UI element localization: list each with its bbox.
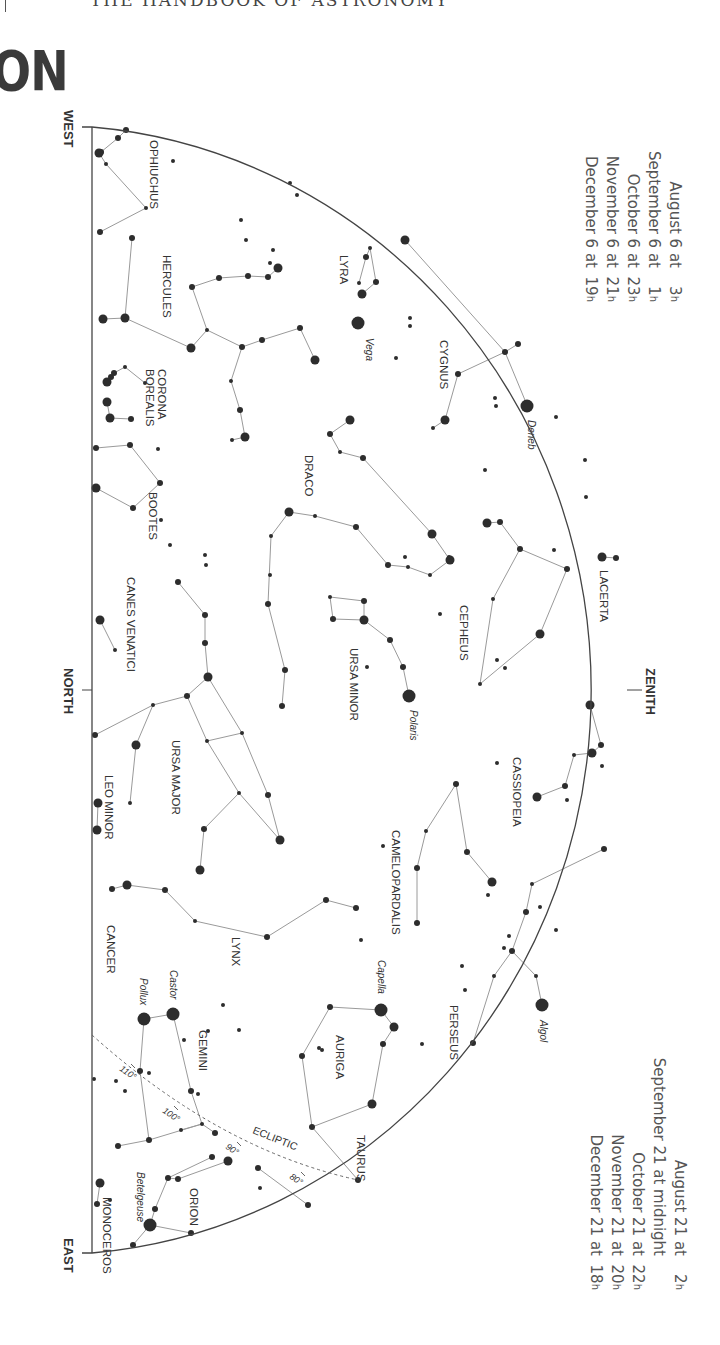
field-star bbox=[204, 563, 208, 567]
field-star bbox=[494, 404, 498, 408]
west-label: WEST bbox=[61, 110, 76, 148]
constellation-figure bbox=[103, 238, 315, 440]
north-label: NORTH bbox=[61, 668, 76, 714]
time-row: November 21 at20h bbox=[606, 1070, 627, 1290]
star-dot bbox=[95, 149, 104, 158]
star-dot bbox=[401, 236, 410, 245]
star-dot bbox=[187, 344, 196, 353]
star-dot bbox=[414, 865, 420, 871]
constellation-label: LYNX bbox=[230, 937, 242, 967]
star-dot bbox=[93, 826, 102, 835]
star-dot bbox=[96, 1179, 105, 1188]
constellation-figure bbox=[405, 240, 527, 428]
star-dot bbox=[586, 701, 595, 710]
time-date: October 21 at bbox=[627, 1152, 648, 1256]
ecliptic-degree-label: 100° bbox=[161, 1105, 182, 1124]
star-dot bbox=[189, 284, 195, 290]
constellation-label: BOOTES bbox=[147, 492, 159, 540]
field-star bbox=[114, 1079, 118, 1083]
star-dot bbox=[202, 612, 208, 618]
constellation-label: OPHIUCHUS bbox=[148, 140, 160, 209]
constellation-figure bbox=[95, 582, 280, 870]
star-dot bbox=[598, 553, 607, 562]
star-dot bbox=[453, 781, 459, 787]
star-dot bbox=[380, 1041, 386, 1047]
star-dot bbox=[237, 407, 243, 413]
star-dot bbox=[229, 379, 233, 383]
ecliptic-tick bbox=[174, 1106, 178, 1110]
star-dot bbox=[346, 416, 355, 425]
star-dot bbox=[282, 667, 288, 673]
star-dot bbox=[200, 1122, 204, 1126]
constellation-label: TAURUS bbox=[355, 1135, 367, 1182]
star-dot bbox=[269, 534, 273, 538]
star-dot bbox=[92, 732, 98, 738]
star-dot bbox=[123, 881, 132, 890]
constellation-label: URSA MAJOR bbox=[170, 740, 182, 815]
field-star bbox=[359, 938, 363, 942]
time-row: August 6 at3h bbox=[664, 82, 685, 302]
star-dot bbox=[276, 836, 285, 845]
star-dot bbox=[428, 573, 432, 577]
times-bottom: August 21 at2hSeptember 21 at midnightOc… bbox=[585, 1070, 690, 1290]
star-dot bbox=[92, 484, 101, 493]
ecliptic-label: ECLIPTIC bbox=[251, 1124, 300, 1153]
field-star bbox=[565, 798, 569, 802]
star-dot bbox=[175, 579, 181, 585]
star-dot bbox=[279, 703, 285, 709]
star-dot bbox=[297, 325, 303, 331]
field-star bbox=[244, 238, 248, 242]
star-dot bbox=[123, 127, 129, 133]
field-star bbox=[171, 159, 175, 163]
star-dot bbox=[111, 370, 117, 376]
time-row: September 6 at1h bbox=[643, 82, 664, 302]
star-dot bbox=[428, 530, 437, 539]
field-star bbox=[408, 324, 412, 328]
field-star bbox=[268, 573, 272, 577]
field-star bbox=[168, 543, 172, 547]
time-row: August 21 at2h bbox=[669, 1070, 690, 1290]
star-name-label: Betelgeuse bbox=[135, 1172, 146, 1222]
star-dot bbox=[94, 1201, 100, 1207]
bright-star-dot bbox=[375, 1004, 388, 1017]
field-star bbox=[538, 905, 542, 909]
time-date: August 6 at bbox=[664, 181, 685, 268]
time-row: October 21 at22h bbox=[627, 1070, 648, 1290]
star-name-label: Pollux bbox=[138, 978, 149, 1006]
star-dot bbox=[517, 546, 523, 552]
star-dot bbox=[455, 371, 461, 377]
field-star bbox=[583, 458, 587, 462]
star-dot bbox=[201, 826, 207, 832]
constellation-figure bbox=[312, 1127, 358, 1180]
star-dot bbox=[146, 1137, 152, 1143]
time-hour: 22h bbox=[627, 1256, 648, 1290]
star-dot bbox=[424, 829, 428, 833]
star-dot bbox=[491, 597, 495, 601]
constellation-label: CANES VENATICI bbox=[125, 577, 137, 672]
field-star bbox=[221, 1003, 225, 1007]
star-name-label: Algol bbox=[538, 1019, 549, 1043]
field-star bbox=[394, 356, 398, 360]
star-dot bbox=[259, 337, 265, 343]
time-date: November 21 at bbox=[606, 1134, 627, 1256]
time-date: December 21 at bbox=[585, 1135, 606, 1256]
star-dot bbox=[299, 1053, 305, 1059]
star-dot bbox=[431, 426, 435, 430]
star-dot bbox=[353, 524, 359, 530]
star-dot bbox=[184, 693, 190, 699]
ecliptic-degree-label: 110° bbox=[118, 1063, 139, 1082]
constellation-figure bbox=[133, 1157, 308, 1245]
field-star bbox=[295, 193, 299, 197]
time-row: December 6 at19h bbox=[580, 82, 601, 302]
constellation-label: AURIGA bbox=[334, 1035, 346, 1079]
star-dot bbox=[390, 1023, 399, 1032]
star-dot bbox=[106, 414, 115, 423]
star-dot bbox=[144, 206, 148, 210]
star-dot bbox=[245, 273, 251, 279]
bright-star-dot bbox=[352, 317, 365, 330]
bright-star-dot bbox=[167, 1008, 180, 1021]
star-dot bbox=[97, 229, 103, 235]
star-dot bbox=[157, 480, 163, 486]
star-dot bbox=[129, 235, 135, 241]
constellation-label: LACERTA bbox=[598, 570, 610, 622]
